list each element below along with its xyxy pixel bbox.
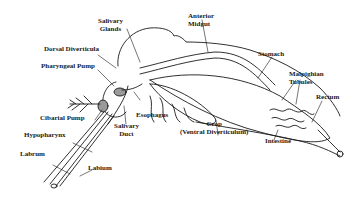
- label-crop: Crop (Ventral Diverticulum): [180, 120, 248, 136]
- pharyngeal-pump: [114, 88, 126, 96]
- label-cibarial-pump: Cibarial Pump: [40, 114, 85, 122]
- label-pharyngeal-pump: Pharyngeal Pump: [41, 62, 95, 70]
- label-intestine: Intestine: [265, 137, 291, 145]
- label-esophagus: Esophagus: [136, 111, 168, 119]
- mosquito-digestive-diagram: Salivary Glands Anterior Midgut Dorsal D…: [0, 0, 356, 197]
- anatomy-drawing: [0, 0, 356, 197]
- label-malpighian-tubules: Malpighian Tubules: [289, 70, 324, 86]
- cibarial-pump: [98, 100, 108, 112]
- proboscis: [44, 112, 114, 186]
- label-rectum: Rectum: [316, 93, 339, 101]
- label-stomach: Stomach: [258, 50, 284, 58]
- esophagus: [122, 84, 142, 90]
- antenna: [68, 96, 100, 112]
- leader-lines: [53, 20, 322, 176]
- label-dorsal-diverticula: Dorsal Diverticula: [44, 45, 99, 53]
- label-labrum: Labrum: [20, 150, 45, 158]
- head-capsule: [103, 82, 126, 117]
- malpighian-tubules: [270, 109, 314, 129]
- label-hypopharynx: Hypopharynx: [24, 131, 66, 139]
- label-anterior-midgut: Anterior Midgut: [188, 12, 214, 28]
- label-salivary-duct: Salivary Duct: [114, 122, 139, 138]
- label-labium: Labium: [88, 164, 112, 172]
- label-salivary-glands: Salivary Glands: [98, 17, 123, 33]
